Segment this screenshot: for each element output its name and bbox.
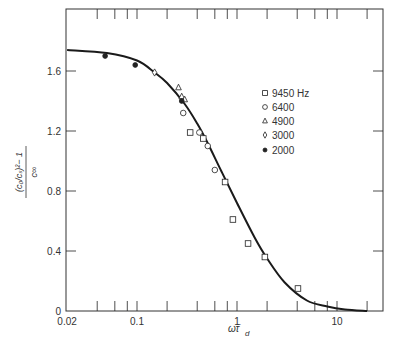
legend-label: 4900 bbox=[272, 116, 295, 127]
x-axis-title-subscript: d bbox=[245, 329, 250, 338]
legend-label: 6400 bbox=[272, 102, 295, 113]
y-axis-title-denominator: c∞ bbox=[29, 167, 39, 178]
square-marker-icon bbox=[295, 286, 301, 292]
y-tick-labels: 00.40.81.21.6 bbox=[47, 66, 61, 317]
legend-label: 3000 bbox=[272, 130, 295, 141]
y-axis-title: (c₀/cₛ)²− 1 c∞ bbox=[14, 146, 39, 198]
square-marker-icon bbox=[262, 254, 268, 260]
x-axis-title-main: ωτ̄ bbox=[228, 323, 241, 334]
x-tick-label: 0.02 bbox=[57, 316, 77, 327]
legend: 9450 Hz6400490030002000 bbox=[263, 88, 310, 156]
fit-curve bbox=[67, 50, 367, 311]
diamond-marker-icon bbox=[263, 132, 267, 138]
circle-marker-icon bbox=[205, 143, 211, 149]
square-marker-icon bbox=[245, 241, 251, 247]
circle-marker-icon bbox=[197, 130, 203, 136]
square-marker-icon bbox=[200, 136, 206, 142]
x-tick-label: 0.1 bbox=[130, 316, 144, 327]
chart: 0.020.1110 00.40.81.21.6 9450 Hz64004900… bbox=[0, 0, 395, 350]
triangle-marker-icon bbox=[176, 84, 182, 90]
filled-circle-marker-icon bbox=[179, 99, 184, 104]
legend-label: 2000 bbox=[272, 145, 295, 156]
triangle-marker-icon bbox=[263, 118, 268, 123]
legend-item: 2000 bbox=[263, 145, 295, 156]
y-axis-title-numerator: (c₀/cₛ)²− 1 bbox=[14, 152, 24, 192]
filled-circle-marker-icon bbox=[103, 54, 108, 59]
x-axis-title: ωτ̄ d bbox=[228, 323, 250, 338]
y-tick-label: 0.8 bbox=[47, 186, 61, 197]
filled-circle-marker-icon bbox=[133, 63, 138, 68]
legend-item: 6400 bbox=[263, 102, 295, 113]
filled-circle-marker-icon bbox=[263, 148, 267, 152]
y-tick-label: 1.2 bbox=[47, 126, 61, 137]
y-tick-label: 1.6 bbox=[47, 66, 61, 77]
x-axis-ticks bbox=[97, 9, 367, 311]
diamond-marker-icon bbox=[152, 69, 156, 76]
circle-marker-icon bbox=[263, 105, 268, 110]
square-marker-icon bbox=[187, 130, 193, 136]
y-axis-ticks bbox=[66, 71, 383, 251]
y-tick-label: 0 bbox=[55, 306, 61, 317]
square-marker-icon bbox=[263, 91, 268, 96]
circle-marker-icon bbox=[212, 167, 218, 173]
circle-marker-icon bbox=[180, 110, 186, 116]
x-tick-label: 10 bbox=[331, 316, 343, 327]
square-marker-icon bbox=[222, 179, 228, 185]
x-tick-labels: 0.020.1110 bbox=[57, 316, 343, 327]
y-tick-label: 0.4 bbox=[47, 246, 61, 257]
legend-item: 9450 Hz bbox=[263, 88, 310, 99]
legend-label: 9450 Hz bbox=[272, 88, 309, 99]
legend-item: 3000 bbox=[263, 130, 294, 141]
legend-item: 4900 bbox=[263, 116, 295, 127]
square-marker-icon bbox=[230, 217, 236, 223]
